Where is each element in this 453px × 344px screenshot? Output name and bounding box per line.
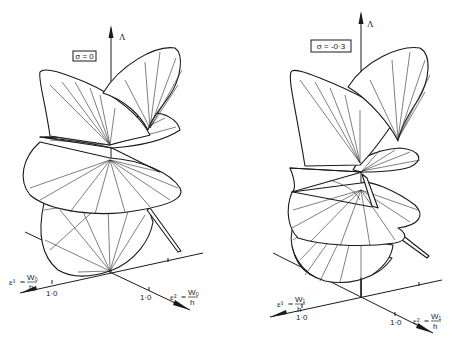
- right-axis-lambda-arrow-icon: [359, 11, 364, 24]
- svg-text:=: =: [20, 277, 25, 287]
- svg-text:=: =: [288, 299, 293, 309]
- left-panel: σ = 0 Λ 1·0 1·0 ε¹ = W₀ h ε² = W₀ h: [9, 25, 203, 310]
- svg-text:h: h: [433, 322, 437, 331]
- left-axis-lambda-arrow-icon: [109, 25, 114, 38]
- figure-canvas: σ = 0 Λ 1·0 1·0 ε¹ = W₀ h ε² = W₀ h: [0, 0, 453, 344]
- svg-text:ε¹: ε¹: [277, 299, 284, 309]
- right-eps2-tick-label: 1·0: [390, 318, 402, 327]
- svg-text:ε¹: ε¹: [9, 277, 16, 287]
- svg-text:h: h: [297, 305, 301, 314]
- svg-text:W₁: W₁: [295, 295, 306, 304]
- svg-text:W₀: W₀: [27, 273, 38, 282]
- left-eps1-tick-label: 1·0: [46, 289, 58, 298]
- svg-text:ε²: ε²: [170, 292, 177, 302]
- left-eps2-tick-label: 1·0: [140, 293, 152, 302]
- svg-text:ε²: ε²: [413, 316, 420, 326]
- svg-text:=: =: [424, 316, 429, 326]
- svg-text:W₀: W₀: [188, 288, 199, 297]
- right-parameter-label-box: σ = -0·3: [311, 40, 351, 52]
- right-parameter-label: σ = -0·3: [317, 42, 346, 51]
- right-eps1-label: ε¹ = W₁ h: [277, 295, 306, 314]
- svg-text:W₁: W₁: [431, 312, 442, 321]
- left-lambda-label: Λ: [119, 32, 126, 42]
- svg-text:h: h: [29, 283, 33, 292]
- left-middle-lobe: [23, 142, 181, 214]
- right-panel: σ = -0·3 Λ 1·0 1·0 ε¹ = W₁ h ε² = W₁ h: [270, 11, 442, 333]
- left-parameter-label: σ = 0: [75, 52, 94, 61]
- left-parameter-label-box: σ = 0: [73, 51, 96, 61]
- right-axis-eps1-arrow-icon: [270, 310, 287, 317]
- right-lambda-label: Λ: [367, 19, 374, 29]
- right-eps1-tick-label: 1·0: [296, 313, 308, 322]
- svg-text:h: h: [190, 298, 194, 307]
- svg-text:=: =: [181, 292, 186, 302]
